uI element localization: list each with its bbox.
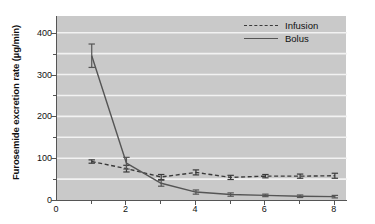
legend-label-infusion: Infusion bbox=[278, 20, 318, 31]
x-tick-label: 8 bbox=[322, 204, 346, 214]
y-tick-mark-minor bbox=[53, 54, 56, 55]
y-tick-mark bbox=[51, 200, 56, 201]
legend-swatch-dashed-line-icon bbox=[244, 22, 278, 30]
legend-item-infusion: Infusion bbox=[244, 19, 342, 32]
y-axis-tick-labels: 0100200300400 bbox=[14, 0, 52, 224]
x-tick-mark-minor bbox=[299, 201, 300, 204]
y-tick-label: 400 bbox=[18, 28, 52, 38]
x-tick-mark bbox=[264, 201, 265, 205]
y-tick-label: 300 bbox=[18, 70, 52, 80]
y-tick-label: 200 bbox=[18, 111, 52, 121]
y-tick-mark-minor bbox=[53, 179, 56, 180]
x-tick-label: 6 bbox=[252, 204, 276, 214]
series-line-bolus bbox=[92, 56, 335, 197]
y-tick-label: 100 bbox=[18, 153, 52, 163]
y-axis-line bbox=[56, 16, 57, 201]
x-tick-label: 0 bbox=[44, 204, 68, 214]
legend-label-bolus: Bolus bbox=[278, 33, 309, 44]
x-tick-mark-minor bbox=[91, 201, 92, 204]
x-tick-mark-minor bbox=[160, 201, 161, 204]
y-tick-mark-minor bbox=[53, 95, 56, 96]
x-axis-line bbox=[56, 200, 347, 201]
y-tick-mark bbox=[51, 33, 56, 34]
y-tick-mark-minor bbox=[53, 137, 56, 138]
chart-legend: Infusion Bolus bbox=[244, 19, 342, 45]
y-tick-mark bbox=[51, 75, 56, 76]
error-bar-bolus bbox=[123, 157, 129, 169]
x-tick-mark bbox=[195, 201, 196, 205]
x-tick-mark-minor bbox=[230, 201, 231, 204]
error-bar-infusion bbox=[332, 173, 338, 178]
y-tick-mark bbox=[51, 116, 56, 117]
legend-item-bolus: Bolus bbox=[244, 32, 342, 45]
x-tick-mark bbox=[334, 201, 335, 205]
y-tick-mark bbox=[51, 158, 56, 159]
figure: Furosemide excretion rate (µg/min) 01002… bbox=[0, 0, 375, 224]
x-tick-label: 4 bbox=[183, 204, 207, 214]
x-tick-label: 2 bbox=[113, 204, 137, 214]
x-tick-mark bbox=[125, 201, 126, 205]
legend-swatch-solid-line-icon bbox=[244, 35, 278, 43]
